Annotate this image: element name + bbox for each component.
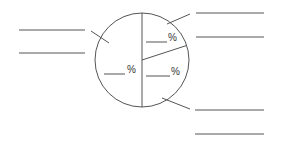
- percent-field-left-sign: %: [127, 64, 136, 75]
- pie-chart: %%%: [0, 0, 286, 164]
- leader-top-right: [167, 14, 190, 24]
- leader-bottom-right: [162, 98, 190, 109]
- percent-field-bottom-right-sign: %: [171, 66, 180, 77]
- percent-field-top-right-sign: %: [168, 32, 177, 43]
- leader-left: [91, 31, 109, 43]
- slice-divider-right: [142, 45, 187, 60]
